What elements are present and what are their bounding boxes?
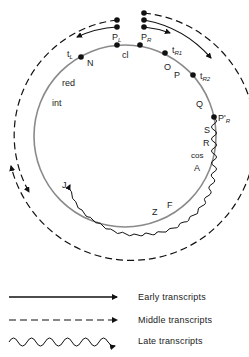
late-transcript-arrow xyxy=(69,118,217,236)
label-gene-p: P xyxy=(174,70,180,80)
middle-transcript-left-arrow xyxy=(14,20,117,192)
label-gene-a: A xyxy=(194,163,200,173)
label-gene-int: int xyxy=(52,98,62,108)
label-gene-r: R xyxy=(203,138,210,148)
label-tr2: tR2 xyxy=(200,71,211,82)
legend-wavy-line xyxy=(9,338,115,346)
legend: Early transcripts Middle transcripts Lat… xyxy=(9,292,212,346)
early-left-start-dot xyxy=(114,24,120,30)
early-transcript-left-arrow xyxy=(77,27,117,37)
early-transcript-right-short-arrow xyxy=(144,27,170,33)
label-gene-s: S xyxy=(204,125,210,135)
middle-right-start-dot xyxy=(141,10,147,16)
label-gene-n: N xyxy=(87,58,94,68)
tr2-terminator-dot xyxy=(190,72,196,78)
label-gene-o: O xyxy=(164,62,171,72)
label-tl: tL xyxy=(67,49,73,60)
label-gene-cos: cos xyxy=(191,151,203,160)
genome-circle xyxy=(34,45,216,227)
tr1-terminator-dot xyxy=(162,50,168,56)
label-gene-j: J xyxy=(62,180,67,190)
lambda-transcription-map: PL PR P'R tL tR1 tR2 N cl O P Q S R cos … xyxy=(0,0,249,357)
legend-label-late: Late transcripts xyxy=(138,336,203,346)
pr-promoter-dot xyxy=(137,42,143,48)
pr-prime-promoter-dot xyxy=(211,114,217,120)
label-pr-prime: P'R xyxy=(218,113,231,124)
label-gene-red: red xyxy=(62,78,75,88)
label-pr: PR xyxy=(141,32,152,43)
pl-promoter-dot xyxy=(114,42,120,48)
label-tr1: tR1 xyxy=(172,45,182,56)
label-gene-z: Z xyxy=(152,207,158,217)
legend-label-early: Early transcripts xyxy=(138,292,206,302)
label-gene-f: F xyxy=(167,200,173,210)
legend-label-middle: Middle transcripts xyxy=(138,315,212,325)
label-pl: PL xyxy=(112,32,121,43)
middle-left-start-dot xyxy=(114,17,120,23)
label-gene-q: Q xyxy=(196,99,203,109)
early-right-long-start-dot xyxy=(141,17,147,23)
label-gene-cl: cl xyxy=(122,50,129,60)
early-right-short-start-dot xyxy=(141,24,147,30)
tl-terminator-dot xyxy=(78,54,84,60)
